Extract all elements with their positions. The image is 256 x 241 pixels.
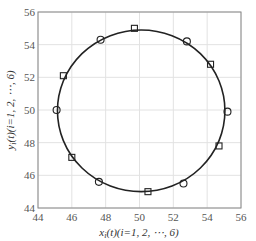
trajectory-circle bbox=[57, 30, 224, 192]
y-tick-label: 56 bbox=[24, 6, 36, 18]
x-axis-label: xi(t)(i=1, 2, ⋯, 6) bbox=[98, 226, 179, 240]
x-tick-label: 48 bbox=[100, 211, 112, 223]
x-tick-label: 56 bbox=[236, 211, 248, 223]
x-axis-ticks: 44464850525456 bbox=[33, 211, 248, 223]
y-tick-label: 54 bbox=[24, 39, 36, 51]
y-tick-label: 52 bbox=[24, 71, 35, 83]
grid-lines bbox=[38, 12, 241, 208]
y-tick-label: 48 bbox=[24, 137, 36, 149]
x-tick-label: 50 bbox=[134, 211, 146, 223]
x-tick-label: 46 bbox=[66, 211, 78, 223]
y-axis-ticks: 44464850525456 bbox=[24, 6, 36, 214]
y-tick-label: 46 bbox=[24, 169, 36, 181]
x-tick-label: 52 bbox=[168, 211, 179, 223]
circle-trajectory bbox=[57, 30, 224, 192]
y-axis-label: yi(t)(i=1, 2, ⋯, 6) bbox=[4, 70, 18, 151]
y-tick-label: 44 bbox=[24, 202, 36, 214]
x-tick-label: 54 bbox=[202, 211, 214, 223]
y-tick-label: 50 bbox=[24, 104, 36, 116]
chart: 44464850525456 44464850525456 xi(t)(i=1,… bbox=[0, 0, 256, 241]
